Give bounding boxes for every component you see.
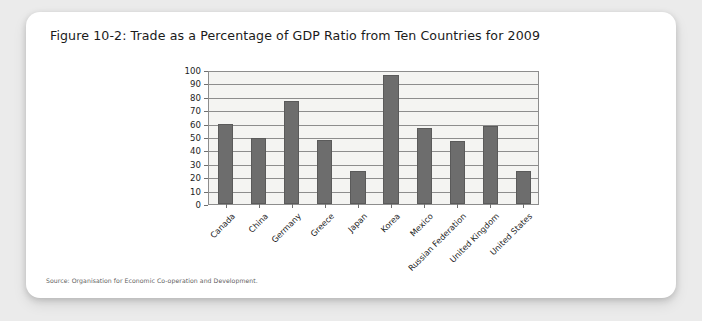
y-tick-label: 70 [161, 106, 201, 116]
x-tick-mark [523, 204, 524, 208]
y-tick-label: 60 [161, 120, 201, 130]
x-tick-mark [325, 204, 326, 208]
bar [317, 140, 332, 204]
bar [251, 138, 266, 204]
plot-area [208, 71, 539, 205]
x-tick-mark [457, 204, 458, 208]
x-tick-label: China [246, 211, 270, 235]
x-tick-label: Russian Federation [406, 211, 468, 273]
y-tick-label: 50 [161, 133, 201, 143]
x-tick-mark [226, 204, 227, 208]
gridline [209, 98, 539, 99]
y-tick-mark [204, 111, 208, 112]
source-note: Source: Organisation for Economic Co-ope… [46, 277, 258, 284]
y-tick-label: 30 [161, 160, 201, 170]
x-tick-mark [391, 204, 392, 208]
x-tick-mark [259, 204, 260, 208]
gridline [209, 111, 539, 112]
x-tick-mark [292, 204, 293, 208]
bar [284, 101, 299, 204]
x-tick-label: Germany [269, 211, 303, 245]
bar [218, 124, 233, 204]
y-tick-mark [204, 71, 208, 72]
x-tick-label: Japan [346, 211, 369, 234]
y-tick-mark [204, 205, 208, 206]
bar-chart: 0102030405060708090100 CanadaChinaGerman… [154, 57, 554, 257]
x-tick-label: Canada [208, 211, 237, 240]
y-tick-mark [204, 138, 208, 139]
x-tick-label: Mexico [408, 211, 435, 238]
bar [450, 141, 465, 204]
y-tick-mark [204, 165, 208, 166]
y-tick-label: 40 [161, 146, 201, 156]
y-tick-label: 0 [161, 200, 201, 210]
x-tick-mark [490, 204, 491, 208]
bar [350, 171, 365, 205]
figure-card: Figure 10-2: Trade as a Percentage of GD… [26, 12, 676, 298]
bar [383, 75, 398, 204]
y-tick-label: 90 [161, 79, 201, 89]
x-tick-label: Greece [308, 211, 336, 239]
y-tick-label: 10 [161, 187, 201, 197]
bar [483, 126, 498, 204]
x-tick-mark [358, 204, 359, 208]
y-tick-mark [204, 125, 208, 126]
y-tick-label: 100 [161, 66, 201, 76]
y-tick-mark [204, 98, 208, 99]
x-tick-mark [424, 204, 425, 208]
bar [516, 171, 531, 205]
figure-title: Figure 10-2: Trade as a Percentage of GD… [50, 28, 540, 43]
y-tick-mark [204, 84, 208, 85]
gridline [209, 84, 539, 85]
y-tick-label: 80 [161, 93, 201, 103]
x-tick-label: Korea [379, 211, 402, 234]
bar [417, 128, 432, 204]
y-tick-label: 20 [161, 173, 201, 183]
y-tick-mark [204, 192, 208, 193]
y-tick-mark [204, 151, 208, 152]
y-tick-mark [204, 178, 208, 179]
gridline [209, 71, 539, 72]
